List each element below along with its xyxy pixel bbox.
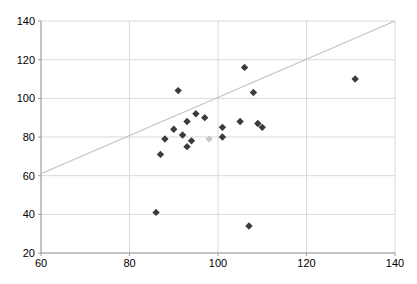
data-point-diamond[interactable] <box>179 131 186 138</box>
data-point-diamond[interactable] <box>241 64 248 71</box>
data-point-diamond[interactable] <box>174 87 181 94</box>
data-point-diamond[interactable] <box>188 137 195 144</box>
data-point-diamond[interactable] <box>219 124 226 131</box>
x-tick-label: 100 <box>209 257 227 269</box>
x-tick-label: 140 <box>386 257 404 269</box>
data-point-diamond[interactable] <box>351 75 358 82</box>
x-tick-label: 80 <box>123 257 135 269</box>
data-point-diamond[interactable] <box>205 135 212 142</box>
data-point-diamond[interactable] <box>250 89 257 96</box>
y-tick-label: 80 <box>23 131 35 143</box>
data-point-diamond[interactable] <box>236 118 243 125</box>
data-point-diamond[interactable] <box>192 110 199 117</box>
y-tick-label: 60 <box>23 170 35 182</box>
y-tick-label: 100 <box>17 92 35 104</box>
y-tick-label: 40 <box>23 208 35 220</box>
data-point-diamond[interactable] <box>201 114 208 121</box>
y-tick-label: 120 <box>17 54 35 66</box>
data-point-diamond[interactable] <box>170 126 177 133</box>
y-tick-label: 140 <box>17 15 35 27</box>
chart-canvas: 608010012014020406080100120140 <box>0 0 417 284</box>
data-point-diamond[interactable] <box>157 151 164 158</box>
y-tick-label: 20 <box>23 247 35 259</box>
data-point-diamond[interactable] <box>183 118 190 125</box>
data-point-diamond[interactable] <box>245 222 252 229</box>
data-point-diamond[interactable] <box>183 143 190 150</box>
data-point-diamond[interactable] <box>219 133 226 140</box>
data-point-diamond[interactable] <box>161 135 168 142</box>
data-point-diamond[interactable] <box>152 209 159 216</box>
x-tick-label: 60 <box>35 257 47 269</box>
scatter-chart[interactable]: 608010012014020406080100120140 <box>0 0 417 284</box>
x-tick-label: 120 <box>297 257 315 269</box>
